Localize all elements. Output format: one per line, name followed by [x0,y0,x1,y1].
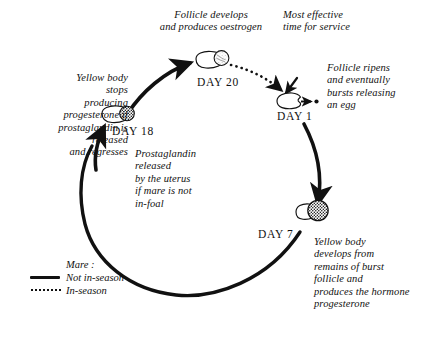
dotted-line-swatch-icon [31,289,61,291]
annotation-prostaglandin-released: Prostaglandin released by the uterus if … [135,148,245,210]
legend-heading: Mare : [66,258,94,271]
legend-item-in-season: In-season [30,284,170,297]
annotation-follicle-ripens: Follicle ripens and eventually bursts re… [327,62,431,112]
annotation-most-effective-time: Most effective time for service [283,9,379,34]
stage-label-day7: DAY 7 [258,228,294,240]
arrow-day1-to-day7 [304,124,320,203]
ovary-icon-day1 [277,93,319,109]
solid-line-swatch-icon [30,276,60,279]
legend-label-in-season: In-season [66,284,107,297]
ovary-icon-day20 [196,51,229,68]
stage-label-day1: DAY 1 [277,110,313,122]
legend-heading-row: Mare : [30,258,170,271]
pointer-most-effective [286,78,297,93]
cycle-diagram: Follicle develops and produces oestrogen… [0,0,435,337]
legend: Mare : Not in-season In-season [30,258,170,297]
legend-item-not-in-season: Not in-season [30,271,170,284]
annotation-yellow-body-stops: Yellow body stops producing progesterone… [6,72,128,159]
stage-label-day20: DAY 20 [197,76,239,88]
annotation-follicle-develops: Follicle develops and produces oestrogen [148,9,274,34]
ovary-icon-day7 [296,200,328,220]
annotation-yellow-body-develops: Yellow body develops from remains of bur… [314,236,434,310]
legend-label-not-in-season: Not in-season [66,271,124,284]
stage-label-day18: DAY 18 [112,125,154,137]
arrow-day18-to-day20 [128,63,190,113]
